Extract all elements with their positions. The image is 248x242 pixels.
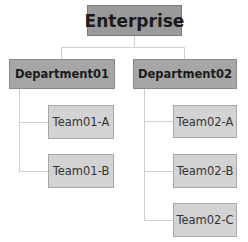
connector-team02-c bbox=[144, 220, 173, 221]
node-team02-c[interactable]: Team02-C bbox=[173, 203, 237, 237]
connector-team02-a bbox=[144, 121, 173, 122]
node-label: Team01-B bbox=[53, 164, 110, 178]
connector-dept02-up bbox=[184, 47, 185, 59]
node-team01-b[interactable]: Team01-B bbox=[48, 154, 114, 188]
node-label: Team02-C bbox=[176, 213, 233, 227]
node-team01-a[interactable]: Team01-A bbox=[48, 105, 114, 139]
node-label: Team02-B bbox=[177, 164, 234, 178]
connector-root-down bbox=[134, 35, 135, 47]
connector-dept01-up bbox=[61, 47, 62, 59]
connector-dept01-trunk bbox=[19, 88, 20, 171]
node-enterprise[interactable]: Enterprise bbox=[87, 5, 182, 36]
node-label: Enterprise bbox=[85, 11, 185, 31]
node-label: Team01-A bbox=[53, 115, 110, 129]
connector-team02-b bbox=[144, 171, 173, 172]
node-label: Department02 bbox=[138, 67, 232, 81]
node-department01[interactable]: Department01 bbox=[9, 59, 115, 89]
node-label: Team02-A bbox=[177, 115, 234, 129]
node-team02-b[interactable]: Team02-B bbox=[173, 154, 237, 188]
connector-horizontal-bar bbox=[61, 47, 185, 48]
connector-dept02-trunk bbox=[144, 88, 145, 220]
connector-team01-a bbox=[19, 122, 48, 123]
node-department02[interactable]: Department02 bbox=[133, 59, 237, 89]
node-label: Department01 bbox=[15, 67, 109, 81]
connector-team01-b bbox=[19, 171, 48, 172]
node-team02-a[interactable]: Team02-A bbox=[173, 105, 237, 138]
